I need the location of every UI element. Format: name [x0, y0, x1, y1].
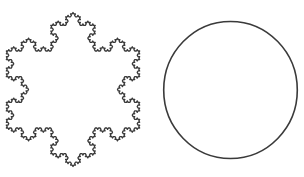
- figure-canvas: [0, 0, 304, 177]
- background: [0, 0, 304, 177]
